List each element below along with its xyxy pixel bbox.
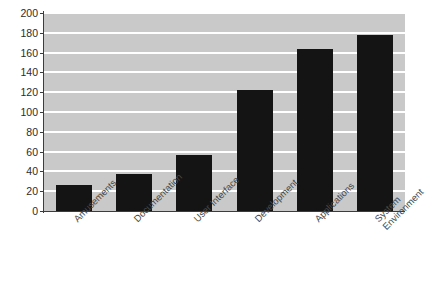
y-axis-tick-mark xyxy=(40,13,44,14)
gridline xyxy=(44,91,405,93)
y-axis-tick-label: 100 xyxy=(2,107,38,118)
gridline xyxy=(44,170,405,172)
gridline xyxy=(44,151,405,153)
gridline xyxy=(44,71,405,73)
y-axis-tick-label: 160 xyxy=(2,47,38,58)
bar xyxy=(297,49,333,211)
y-axis-tick-label: 60 xyxy=(2,146,38,157)
bar xyxy=(237,90,273,211)
gridline xyxy=(44,111,405,113)
y-axis-tick-mark xyxy=(40,72,44,73)
y-axis-tick-label: 0 xyxy=(2,206,38,217)
y-axis-tick-mark xyxy=(40,92,44,93)
y-axis-tick-mark xyxy=(40,53,44,54)
bar xyxy=(357,35,393,211)
gridline xyxy=(44,52,405,54)
gridline xyxy=(44,131,405,133)
y-axis-tick-mark xyxy=(40,33,44,34)
x-axis-category-labels: AmusementsDocumentationUser InterfaceDev… xyxy=(44,211,405,281)
y-axis-tick-mark xyxy=(40,112,44,113)
gridline xyxy=(44,32,405,34)
y-axis-tick-label: 180 xyxy=(2,28,38,39)
y-axis-tick-label: 20 xyxy=(2,186,38,197)
y-axis-tick-labels: 020406080100120140160180200 xyxy=(0,0,38,281)
y-axis-tick-label: 140 xyxy=(2,67,38,78)
bar-chart: 020406080100120140160180200 AmusementsDo… xyxy=(0,0,431,281)
y-axis-tick-label: 200 xyxy=(2,8,38,19)
y-axis-tick-mark xyxy=(40,191,44,192)
y-axis-tick-label: 80 xyxy=(2,127,38,138)
y-axis-tick-mark xyxy=(40,171,44,172)
y-axis-tick-label: 120 xyxy=(2,87,38,98)
y-axis-tick-label: 40 xyxy=(2,166,38,177)
y-axis-tick-mark xyxy=(40,152,44,153)
gridline xyxy=(44,13,405,14)
y-axis-tick-mark xyxy=(40,132,44,133)
